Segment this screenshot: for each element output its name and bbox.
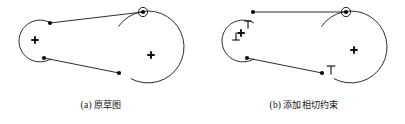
sketch-diagram-a — [0, 0, 202, 98]
profile-left-arc — [222, 20, 253, 62]
profile-upper-line — [50, 12, 143, 23]
figure-panel-b: (b)添加相切约束 — [203, 0, 405, 124]
figure-caption-b: (b)添加相切约束 — [203, 98, 405, 112]
figure-root: (a)原草图 (b)添加相切约束 — [0, 0, 405, 124]
lower-left-endpoint[interactable] — [245, 56, 249, 60]
upper-left-endpoint[interactable] — [48, 21, 52, 25]
upper-right-endpoint[interactable] — [141, 10, 145, 14]
profile-lower-line — [44, 58, 119, 73]
caption-index-b: (b) — [270, 100, 282, 110]
profile-right-arc — [119, 11, 184, 83]
sketch-diagram-b — [203, 0, 405, 98]
lower-right-endpoint[interactable] — [117, 71, 121, 75]
caption-index-a: (a) — [81, 100, 92, 110]
lower-left-endpoint[interactable] — [42, 56, 46, 60]
caption-text-a: 原草图 — [94, 100, 122, 110]
upper-left-endpoint[interactable] — [251, 10, 255, 14]
lower-right-endpoint[interactable] — [320, 71, 324, 75]
figure-panel-a: (a)原草图 — [0, 0, 202, 124]
figure-caption-a: (a)原草图 — [0, 98, 202, 112]
profile-lower-line — [247, 58, 322, 73]
upper-right-endpoint[interactable] — [344, 10, 348, 14]
caption-text-b: 添加相切约束 — [283, 100, 338, 110]
